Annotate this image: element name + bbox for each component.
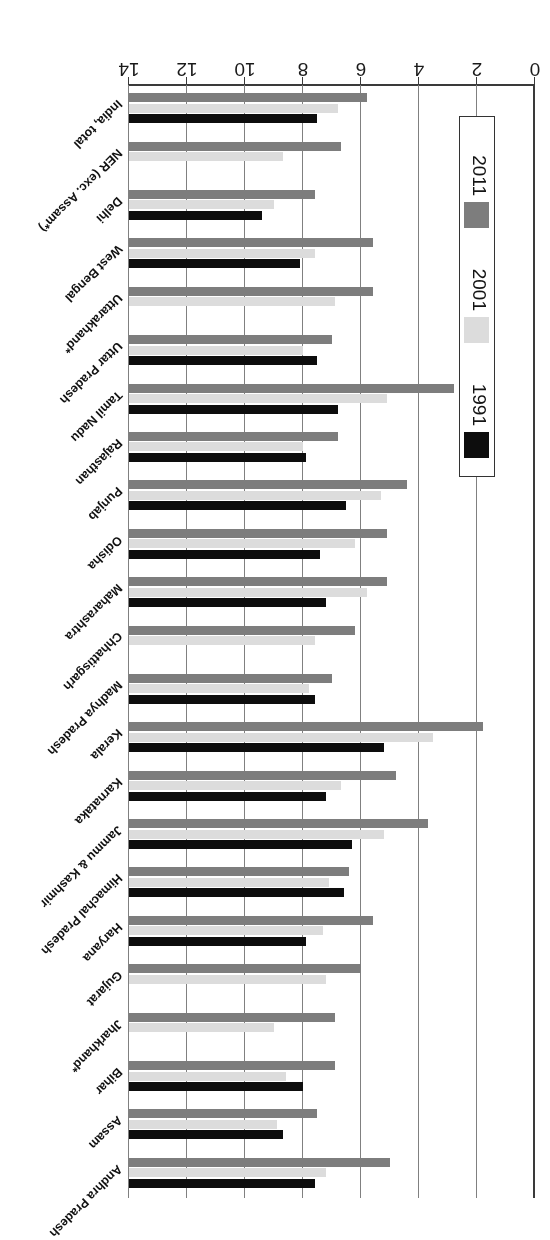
category-label: Gujarat xyxy=(84,968,125,1009)
bar-1991 xyxy=(129,405,338,414)
bar-2011 xyxy=(129,1109,318,1118)
category-label: Delhi xyxy=(93,194,125,226)
bar-1991 xyxy=(129,114,318,123)
bar-2001 xyxy=(129,684,309,693)
bar-2011 xyxy=(129,529,387,538)
bar-2001 xyxy=(129,636,315,645)
bar-1991 xyxy=(129,453,306,462)
bar-2001 xyxy=(129,539,355,548)
bar-2011 xyxy=(129,1013,335,1022)
bar-2001 xyxy=(129,249,315,258)
category-label: Jammu & Kashmir xyxy=(37,823,125,911)
bar-2001 xyxy=(129,733,434,742)
bar-2011 xyxy=(129,819,428,828)
bar-group xyxy=(129,1150,535,1198)
bar-1991 xyxy=(129,743,384,752)
bar-2011 xyxy=(129,287,373,296)
bar-2011 xyxy=(129,964,361,973)
category-label: Punjab xyxy=(86,484,125,523)
legend-label-1991: 1991 xyxy=(464,384,490,426)
legend-swatch-2011 xyxy=(464,202,489,228)
bar-group xyxy=(129,1101,535,1149)
bar-2001 xyxy=(129,201,274,210)
bar-2011 xyxy=(129,335,332,344)
bar-group xyxy=(129,714,535,762)
legend-swatch-1991 xyxy=(464,432,489,458)
legend-item-2011: 2011 xyxy=(460,116,494,228)
bar-1991 xyxy=(129,937,306,946)
tick-label-10: 10 xyxy=(225,58,265,80)
bar-2011 xyxy=(129,771,396,780)
bar-2001 xyxy=(129,878,329,887)
legend-swatch-2001 xyxy=(464,317,489,343)
bar-2011 xyxy=(129,1158,390,1167)
bar-group xyxy=(129,1004,535,1052)
bar-2001 xyxy=(129,830,384,839)
bar-1991 xyxy=(129,1179,315,1188)
tick-label-8: 8 xyxy=(283,58,323,80)
chart-legend: 199120012011 xyxy=(459,116,495,477)
bar-2001 xyxy=(129,346,303,355)
bar-2001 xyxy=(129,104,338,113)
bar-2011 xyxy=(129,238,373,247)
bar-2001 xyxy=(129,781,341,790)
category-label: Himachal Pradesh xyxy=(38,872,125,959)
bar-2001 xyxy=(129,1120,277,1129)
bar-1991 xyxy=(129,792,326,801)
category-label: Haryana xyxy=(80,920,125,965)
legend-label-2011: 2011 xyxy=(464,155,490,196)
tick-label-0: 0 xyxy=(515,58,550,80)
tick-label-14: 14 xyxy=(109,58,149,80)
bar-1991 xyxy=(129,211,262,220)
bar-group xyxy=(129,811,535,859)
tick-label-4: 4 xyxy=(399,58,439,80)
bar-2011 xyxy=(129,867,349,876)
bar-2001 xyxy=(129,588,367,597)
bar-2011 xyxy=(129,432,338,441)
bar-1991 xyxy=(129,840,352,849)
bar-2011 xyxy=(129,1061,335,1070)
category-label: India, total xyxy=(71,97,125,151)
bar-2001 xyxy=(129,491,381,500)
bar-group xyxy=(129,859,535,907)
legend-item-1991: 1991 xyxy=(460,346,494,458)
bar-2001 xyxy=(129,297,335,306)
category-label: Andhra Pradesh xyxy=(47,1162,125,1240)
bar-2011 xyxy=(129,142,341,151)
bar-2001 xyxy=(129,926,323,935)
bar-group xyxy=(129,472,535,520)
bar-2001 xyxy=(129,1023,274,1032)
bar-1991 xyxy=(129,888,344,897)
bar-2011 xyxy=(129,93,367,102)
bar-2011 xyxy=(129,577,387,586)
category-label: NER (exc. Assam*) xyxy=(36,146,125,235)
category-label: Karnataka xyxy=(72,775,125,828)
category-label: Rajasthan xyxy=(73,436,125,488)
category-label: Assam xyxy=(86,1113,125,1152)
bar-2001 xyxy=(129,394,387,403)
bar-2011 xyxy=(129,384,454,393)
bar-1991 xyxy=(129,501,347,510)
category-label: Kerala xyxy=(88,726,125,763)
bar-2011 xyxy=(129,190,315,199)
tick-label-2: 2 xyxy=(457,58,497,80)
bar-group xyxy=(129,569,535,617)
bar-2001 xyxy=(129,442,303,451)
bar-2011 xyxy=(129,626,355,635)
bar-2011 xyxy=(129,674,332,683)
bar-1991 xyxy=(129,1130,283,1139)
tick-label-12: 12 xyxy=(167,58,207,80)
bar-1991 xyxy=(129,550,320,559)
bar-2001 xyxy=(129,975,326,984)
bar-group xyxy=(129,908,535,956)
bar-group xyxy=(129,762,535,810)
bar-2001 xyxy=(129,1168,326,1177)
bar-group xyxy=(129,1053,535,1101)
bar-group xyxy=(129,666,535,714)
bar-group xyxy=(129,521,535,569)
bar-1991 xyxy=(129,1082,303,1091)
bar-1991 xyxy=(129,259,300,268)
bar-2001 xyxy=(129,1072,286,1081)
